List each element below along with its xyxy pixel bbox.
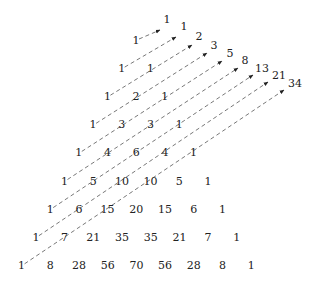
pascal-entry: 2 (133, 90, 140, 103)
pascal-entry: 5 (90, 175, 97, 188)
pascal-entry: 1 (32, 231, 39, 244)
pascal-entry: 7 (205, 231, 212, 244)
pascal-entry: 6 (75, 203, 82, 216)
fibonacci-label: 2 (196, 30, 203, 43)
pascal-entry: 1 (147, 62, 154, 75)
fibonacci-label: 21 (272, 69, 286, 82)
pascal-entry: 1 (61, 175, 68, 188)
pascal-entry: 21 (172, 231, 186, 244)
pascal-entry: 3 (118, 118, 125, 131)
pascal-entry: 8 (47, 259, 54, 272)
pascal-entry: 4 (161, 146, 168, 159)
fibonacci-label: 13 (255, 62, 269, 75)
pascal-entry: 21 (86, 231, 100, 244)
pascal-entry: 15 (158, 203, 172, 216)
pascal-entry: 7 (61, 231, 68, 244)
diagonal-arrow (139, 30, 160, 39)
pascal-entry: 35 (144, 231, 158, 244)
pascal-entry: 1 (75, 146, 82, 159)
pascal-entry: 8 (219, 259, 226, 272)
pascal-entry: 1 (133, 34, 140, 47)
pascal-fibonacci-diagram: 1111211331146411510105116152015611721353… (0, 0, 312, 286)
pascal-entry: 1 (205, 175, 212, 188)
fibonacci-labels: 112358132134 (164, 13, 303, 90)
pascal-entry: 20 (129, 203, 143, 216)
diagram-svg: 1111211331146411510105116152015611721353… (0, 0, 312, 286)
pascal-entry: 1 (90, 118, 97, 131)
pascal-entry: 10 (144, 175, 158, 188)
fibonacci-label: 8 (242, 54, 249, 67)
pascal-entry: 1 (47, 203, 54, 216)
pascal-entry: 35 (115, 231, 129, 244)
pascal-entry: 4 (104, 146, 111, 159)
pascal-entry: 70 (129, 259, 143, 272)
pascal-entry: 1 (233, 231, 240, 244)
pascal-entry: 1 (18, 259, 25, 272)
pascal-entry: 5 (176, 175, 183, 188)
pascal-entry: 10 (115, 175, 129, 188)
pascal-entry: 1 (176, 118, 183, 131)
pascal-entry: 28 (72, 259, 86, 272)
fibonacci-label: 1 (181, 20, 188, 33)
pascal-entry: 56 (158, 259, 172, 272)
pascal-entry: 1 (161, 90, 168, 103)
pascal-entry: 6 (133, 146, 140, 159)
pascal-entry: 1 (104, 90, 111, 103)
diagonal-arrow (53, 75, 253, 208)
pascal-entry: 3 (147, 118, 154, 131)
pascal-entry: 1 (219, 203, 226, 216)
pascal-entry: 56 (101, 259, 115, 272)
fibonacci-label: 1 (164, 13, 171, 26)
pascal-entry: 1 (190, 146, 197, 159)
fibonacci-label: 34 (288, 77, 302, 90)
pascal-entry: 28 (187, 259, 201, 272)
pascal-entry: 1 (118, 62, 125, 75)
pascal-entry: 15 (101, 203, 115, 216)
pascal-entry: 1 (248, 259, 255, 272)
pascal-triangle: 1111211331146411510105116152015611721353… (18, 34, 255, 272)
pascal-entry: 6 (190, 203, 197, 216)
fibonacci-label: 5 (227, 47, 234, 60)
fibonacci-label: 3 (211, 39, 218, 52)
